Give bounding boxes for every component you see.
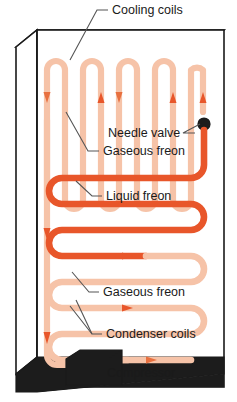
refrigeration-cycle-diagram: Cooling coils Needle valve Gaseous freon… [0,0,237,402]
label-cooling-coils: Cooling coils [112,3,183,17]
label-condenser-coils: Condenser coils [106,327,196,341]
label-needle-valve: Needle valve [108,126,180,140]
label-compressor: Compressor [107,366,175,380]
cabinet-left-face [16,30,37,374]
label-gaseous-freon-2: Gaseous freon [103,285,185,299]
label-gaseous-freon-1: Gaseous freon [103,144,185,158]
label-liquid-freon: Liquid freon [106,189,171,203]
